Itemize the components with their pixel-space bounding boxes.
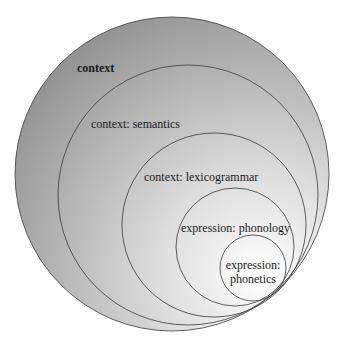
label-phonetics: expression: phonetics [222,258,284,286]
label-phonetics-line2: phonetics [222,272,284,286]
label-phonetics-line1: expression: [222,258,284,272]
label-lexicogrammar: context: lexicogrammar [144,170,258,185]
label-semantics: context: semantics [91,117,180,132]
label-phonology: expression: phonology [181,221,290,236]
label-context: context [77,61,114,76]
